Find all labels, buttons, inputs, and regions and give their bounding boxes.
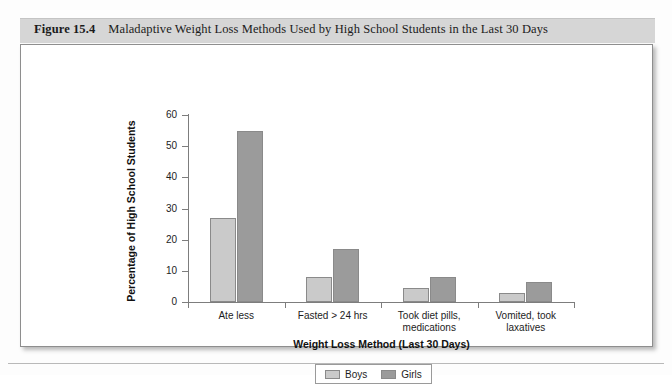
x-axis-category-label: Ate less [188,310,285,322]
legend-entry-girls: Girls [381,369,422,380]
bar-boys-3 [499,293,525,302]
legend-label-girls: Girls [401,369,422,380]
x-axis-category-label: Fasted > 24 hrs [285,310,382,322]
bar-girls-3 [526,282,552,302]
bar-boys-0 [210,218,236,302]
x-axis-title: Weight Loss Method (Last 30 Days) [189,338,574,350]
x-axis-category-line: Took diet pills, [381,310,478,322]
legend-label-boys: Boys [345,369,367,380]
figure-caption: Figure 15.4Maladaptive Weight Loss Metho… [34,22,644,37]
legend-swatch-boys [325,370,340,379]
bar-boys-2 [403,288,429,302]
legend-entry-boys: Boys [325,369,367,380]
bar-girls-1 [333,249,359,302]
x-axis-category-label: Took diet pills,medications [381,310,478,334]
x-axis-tick [478,303,479,308]
x-axis-tick [285,303,286,308]
bar-boys-1 [306,277,332,302]
legend-swatch-girls [381,370,396,379]
figure-caption-text: Maladaptive Weight Loss Methods Used by … [108,22,548,36]
bar-girls-2 [430,277,456,302]
x-axis-category-line: medications [381,322,478,334]
x-axis-category-label: Vomited, tooklaxatives [478,310,575,334]
chart-legend: Boys Girls [315,364,432,384]
figure-box: Percentage of High School Students 01020… [20,44,653,347]
bar-girls-0 [237,131,263,302]
x-axis-tick [381,303,382,308]
x-axis-category-line: laxatives [478,322,575,334]
x-axis-tick [574,303,575,308]
plot-area [21,115,654,302]
x-axis-tick [188,303,189,308]
page-divider-rule [8,363,664,364]
x-axis-category-line: Vomited, took [478,310,575,322]
x-axis-category-line: Fasted > 24 hrs [285,310,382,322]
x-axis-category-line: Ate less [188,310,285,322]
figure-number: Figure 15.4 [34,22,95,36]
